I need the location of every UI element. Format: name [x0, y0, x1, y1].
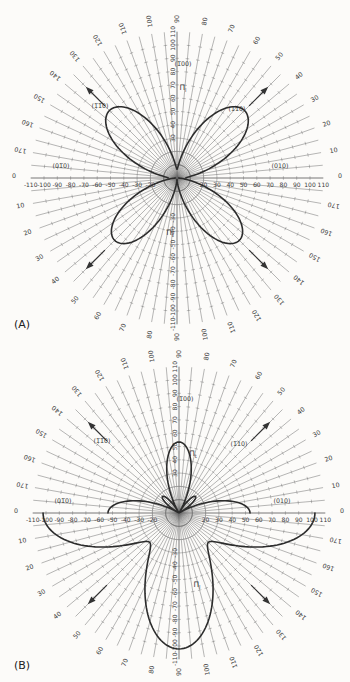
tick-mark — [154, 296, 158, 297]
tick-mark — [242, 292, 245, 294]
tick-mark — [138, 443, 141, 445]
tick-mark — [265, 573, 267, 576]
tick-mark — [196, 617, 200, 618]
tick-mark — [116, 281, 119, 283]
tick-mark — [270, 565, 272, 568]
axis-number: 100 — [169, 39, 176, 51]
tick-mark — [102, 565, 104, 568]
tick-mark — [200, 382, 204, 383]
tick-mark — [281, 158, 282, 162]
tick-mark — [113, 523, 114, 527]
axis-number: 20 — [202, 516, 210, 523]
tick-mark — [113, 557, 115, 560]
tick-mark — [242, 188, 243, 192]
axis-number: -30 — [169, 213, 176, 223]
tick-mark — [184, 125, 188, 126]
direction-arrow-shaft — [249, 250, 263, 264]
angle-label: 80 — [202, 352, 210, 361]
tick-mark — [91, 573, 93, 576]
tick-mark — [166, 447, 170, 448]
angle-label: 170 — [16, 481, 29, 490]
tick-mark — [214, 231, 217, 233]
tick-mark — [268, 123, 270, 126]
axis-number: 90 — [295, 516, 303, 523]
tick-mark — [107, 275, 110, 277]
angle-label: 160 — [21, 119, 35, 130]
tick-mark — [72, 117, 74, 120]
tick-mark — [276, 443, 278, 446]
tick-mark — [216, 566, 219, 568]
tick-mark — [109, 62, 112, 64]
tick-mark — [211, 196, 213, 199]
axis-number: -90 — [169, 293, 176, 303]
angle-label: 50 — [69, 294, 80, 305]
tick-mark — [116, 425, 119, 427]
tick-mark — [195, 212, 198, 214]
tick-mark — [61, 490, 62, 494]
tick-mark — [84, 230, 86, 233]
tick-mark — [111, 397, 114, 399]
tick-mark — [139, 566, 142, 568]
tick-mark — [282, 571, 284, 574]
tick-mark — [74, 530, 75, 534]
tick-mark — [189, 256, 193, 257]
tick-mark — [98, 190, 99, 194]
tick-mark — [198, 47, 202, 48]
tick-mark — [297, 490, 298, 494]
tick-mark — [270, 495, 271, 499]
angle-label: 20 — [25, 562, 35, 571]
tick-mark — [123, 550, 125, 553]
tick-mark — [195, 143, 198, 145]
tick-mark — [245, 216, 247, 219]
tick-mark — [246, 414, 249, 416]
axis-number: 80 — [282, 516, 290, 523]
tick-mark — [122, 85, 125, 87]
angle-label: 10 — [331, 481, 340, 489]
tick-mark — [198, 309, 202, 310]
tick-mark — [246, 610, 249, 612]
tick-mark — [166, 578, 170, 579]
tick-mark — [230, 138, 232, 141]
tick-mark — [98, 162, 99, 166]
axis-number: -50 — [106, 181, 116, 188]
angle-label: 50 — [274, 51, 285, 62]
tick-mark — [124, 588, 127, 590]
tick-mark — [268, 192, 269, 196]
tick-mark — [124, 167, 125, 171]
angle-label: 70 — [226, 24, 235, 34]
tick-mark — [145, 133, 148, 135]
angle-label: 20 — [321, 119, 331, 128]
axis-number: 40 — [226, 181, 234, 188]
tick-mark — [285, 253, 287, 256]
tick-mark — [161, 256, 165, 257]
tick-mark — [265, 450, 267, 453]
angle-label: 150 — [32, 93, 46, 105]
tick-mark — [111, 131, 113, 134]
angle-label: 160 — [319, 227, 333, 238]
tick-mark — [100, 123, 102, 126]
tick-mark — [243, 466, 245, 469]
axis-number: -100 — [169, 304, 176, 318]
tick-mark — [122, 101, 125, 103]
tick-mark — [137, 231, 140, 233]
tick-mark — [152, 47, 156, 48]
tick-mark — [291, 110, 293, 113]
tick-mark — [202, 131, 205, 133]
tick-mark — [209, 199, 211, 202]
tick-mark — [157, 282, 161, 283]
tick-mark — [255, 162, 256, 166]
tick-mark — [237, 264, 240, 266]
tick-mark — [308, 199, 309, 203]
tick-mark — [263, 115, 265, 118]
tick-mark — [243, 557, 245, 560]
axis-number: 80 — [280, 181, 288, 188]
tick-mark — [234, 143, 236, 146]
angle-label: 150 — [310, 587, 324, 599]
axis-number: 30 — [213, 181, 221, 188]
angle-label: 90 — [175, 350, 182, 358]
angle-label: 170 — [329, 536, 342, 545]
tick-mark — [161, 99, 165, 100]
tick-mark — [72, 236, 74, 239]
tick-mark — [157, 478, 160, 480]
axis-number: -90 — [171, 628, 178, 638]
